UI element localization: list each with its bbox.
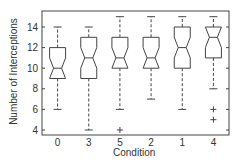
notched-box <box>143 37 159 68</box>
x-tick-label: 0 <box>55 137 61 148</box>
x-axis-label: Condition <box>113 147 155 158</box>
y-tick-label: 10 <box>27 63 39 74</box>
boxplot-chart: 468101214035214 <box>0 0 244 165</box>
x-tick-label: 4 <box>211 137 217 148</box>
x-tick-label: 1 <box>179 137 185 148</box>
y-tick-label: 4 <box>32 125 38 136</box>
y-tick-label: 8 <box>32 83 38 94</box>
notched-box <box>112 37 128 68</box>
plot-frame <box>42 11 229 135</box>
x-tick-label: 3 <box>86 137 92 148</box>
y-tick-label: 14 <box>27 22 39 33</box>
y-tick-label: 12 <box>27 42 39 53</box>
y-tick-label: 6 <box>32 104 38 115</box>
notched-box <box>205 27 221 58</box>
y-axis-label: Number of Interceptions <box>8 17 19 127</box>
notched-box <box>50 48 66 79</box>
